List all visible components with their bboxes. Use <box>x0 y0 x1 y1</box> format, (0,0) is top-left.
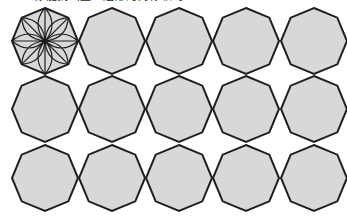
octagon-tiling-figure <box>0 0 347 219</box>
octagon-shape <box>146 145 212 211</box>
octagon-cell <box>79 76 145 142</box>
flower-pattern <box>12 8 78 74</box>
octagon-cell <box>146 145 212 211</box>
octagon-cell <box>12 145 78 211</box>
octagon-shape <box>79 145 145 211</box>
octagon-shape <box>281 8 347 74</box>
octagon-cell <box>213 76 279 142</box>
octagon-shape <box>281 145 347 211</box>
octagon-shape <box>213 76 279 142</box>
octagon-shape <box>281 76 347 142</box>
octagon-cell <box>79 8 145 74</box>
octagon-cell <box>146 8 212 74</box>
octagon-shape <box>146 76 212 142</box>
octagon-cell <box>281 8 347 74</box>
octagon-cell <box>12 76 78 142</box>
octagon-cell <box>213 8 279 74</box>
octagon-shape <box>79 76 145 142</box>
octagon-shape <box>213 145 279 211</box>
octagon-cell <box>281 145 347 211</box>
octagon-shape <box>213 8 279 74</box>
octagon-cell <box>213 145 279 211</box>
octagon-shape <box>146 8 212 74</box>
octagon-cell <box>12 8 78 74</box>
octagon-cell <box>146 76 212 142</box>
octagon-shape <box>79 8 145 74</box>
octagon-shape <box>12 145 78 211</box>
octagon-cell <box>281 76 347 142</box>
octagon-shape <box>12 76 78 142</box>
octagon-cell <box>79 145 145 211</box>
